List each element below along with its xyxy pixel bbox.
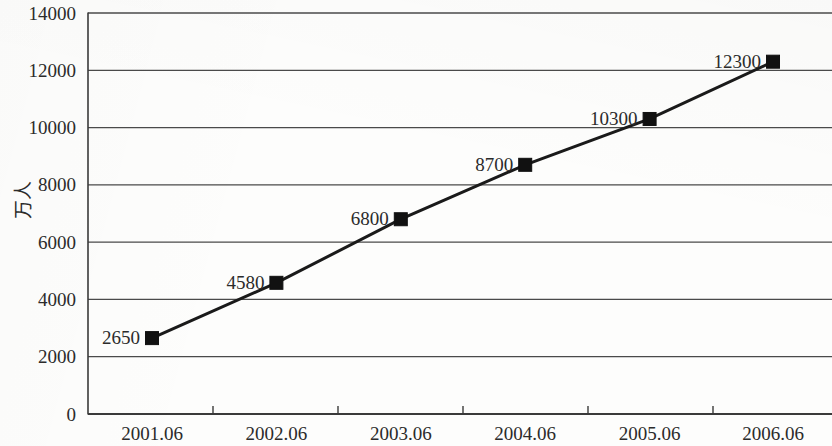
y-axis-title: 万人 — [13, 181, 34, 219]
y-axis-tick-label: 10000 — [29, 117, 77, 138]
data-point-marker — [146, 332, 159, 345]
chart-canvas: 02000400060008000100001200014000 2001.06… — [0, 0, 832, 446]
data-series-markers-group — [146, 55, 780, 344]
y-axis-tick-label: 0 — [67, 404, 77, 425]
y-axis-tick-labels-group: 02000400060008000100001200014000 — [29, 3, 77, 425]
x-axis-tick-label: 2002.06 — [246, 423, 308, 444]
y-axis-tick-label: 4000 — [38, 289, 76, 310]
x-axis-ticks-group — [213, 406, 713, 414]
data-point-marker — [643, 112, 656, 125]
data-series-line-group — [152, 62, 773, 338]
data-point-marker — [270, 276, 283, 289]
data-point-labels-group: 26504580680087001030012300 — [102, 51, 761, 348]
data-point-label: 2650 — [102, 327, 140, 348]
data-point-label: 4580 — [226, 272, 264, 293]
x-axis-tick-label: 2005.06 — [619, 423, 681, 444]
data-point-label: 6800 — [351, 208, 389, 229]
x-axis-tick-labels-group: 2001.062002.062003.062004.062005.062006.… — [121, 423, 804, 444]
y-axis-tick-label: 12000 — [29, 60, 77, 81]
x-axis-tick-label: 2001.06 — [121, 423, 183, 444]
x-axis-tick-label: 2006.06 — [742, 423, 804, 444]
y-axis-tick-label: 14000 — [29, 3, 77, 24]
data-point-marker — [394, 213, 407, 226]
line-chart-figure: 02000400060008000100001200014000 2001.06… — [0, 0, 832, 446]
y-axis-tick-label: 6000 — [38, 232, 76, 253]
data-point-label: 8700 — [475, 154, 513, 175]
x-axis-tick-label: 2004.06 — [494, 423, 556, 444]
series-polyline — [152, 62, 773, 338]
y-axis-title-group: 万人 — [13, 181, 34, 219]
data-point-marker — [767, 55, 780, 68]
data-point-label: 12300 — [714, 51, 762, 72]
data-point-label: 10300 — [590, 108, 638, 129]
y-axis-tick-label: 2000 — [38, 346, 76, 367]
x-axis-tick-label: 2003.06 — [370, 423, 432, 444]
data-point-marker — [519, 158, 532, 171]
y-axis-tick-label: 8000 — [38, 174, 76, 195]
